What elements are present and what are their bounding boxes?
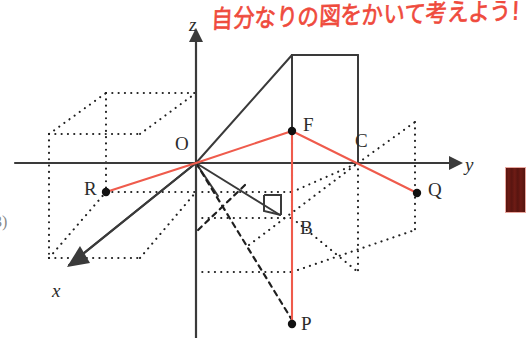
solid-construction-lines: [69, 55, 358, 265]
dashed-ray-to-P: [196, 163, 292, 320]
dot-R: [102, 188, 110, 196]
point-label-P: P: [301, 314, 312, 333]
figure-page: 自分なりの図をかいて考えよう! O R F C Q B P x y z 3): [0, 0, 526, 338]
red-answer-lines: [106, 131, 417, 324]
dot-P: [288, 320, 296, 328]
handwritten-annotation: 自分なりの図をかいて考えよう!: [212, 1, 524, 37]
point-label-F: F: [303, 115, 314, 134]
red-segment-R-O: [106, 163, 196, 192]
point-dots: [102, 127, 421, 328]
dot-Q: [413, 189, 421, 197]
scan-edge-artifact-grain: [506, 168, 525, 212]
axis-label-z: z: [189, 15, 196, 34]
point-label-Q: Q: [428, 180, 442, 199]
problem-number-margin: 3): [0, 214, 7, 230]
point-label-O: O: [175, 134, 189, 153]
geometry-figure: [0, 0, 526, 338]
axis-label-x: x: [52, 281, 60, 300]
handwritten-annotation-text: 自分なりの図をかいて考えよう!: [212, 1, 521, 34]
right-angle-marker: [264, 195, 281, 215]
point-label-B: B: [300, 218, 313, 237]
axis-y-arrowhead: [449, 156, 463, 170]
point-label-C: C: [355, 131, 368, 150]
point-label-R: R: [84, 179, 97, 198]
dotted-construction-right: [196, 122, 415, 272]
scan-edge-artifact-block: [505, 167, 526, 213]
dotted-construction-left: [49, 93, 196, 258]
axis-x-arrowhead: [67, 246, 90, 267]
axis-label-y: y: [465, 155, 473, 174]
dot-F: [288, 127, 296, 135]
